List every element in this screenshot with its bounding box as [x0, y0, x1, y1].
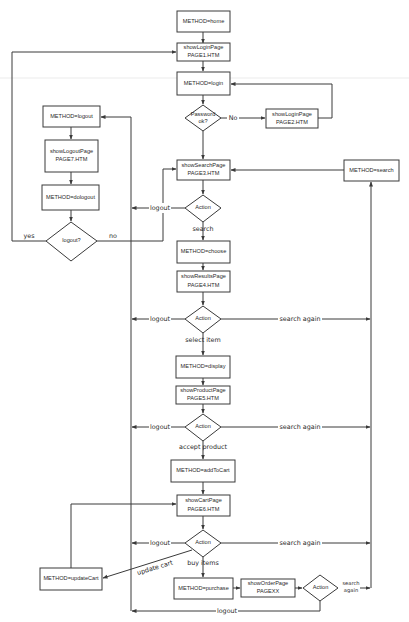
svg-text:PAGE5.HTM: PAGE5.HTM: [187, 395, 219, 401]
label-yes-logout: yes: [23, 232, 35, 240]
label-search-1: search: [192, 225, 213, 233]
label-logout-4: logout: [150, 539, 171, 547]
node-show-cart-page6: showCartPage PAGE6.HTM: [177, 495, 230, 516]
svg-text:Action: Action: [195, 423, 211, 429]
node-action-4-decision: Action: [185, 530, 221, 557]
web-store-flowchart: No yes no logout search logout search ag…: [0, 0, 409, 622]
svg-text:Password: Password: [191, 111, 216, 117]
svg-text:PAGE4.HTM: PAGE4.HTM: [188, 282, 220, 288]
svg-text:PAGE6.HTM: PAGE6.HTM: [188, 506, 220, 512]
svg-text:PAGE1.HTM: PAGE1.HTM: [188, 52, 220, 58]
svg-text:Action: Action: [195, 204, 211, 210]
node-method-login: METHOD=login: [177, 72, 230, 95]
label-search-again-4: search again: [280, 539, 321, 547]
svg-text:showLoginPage: showLoginPage: [272, 111, 312, 117]
svg-text:PAGEXX: PAGEXX: [257, 588, 280, 594]
node-action-5-decision: Action: [303, 575, 338, 601]
node-show-login-page2: showLoginPage PAGE2.HTM: [266, 109, 318, 128]
svg-text:showOrderPage: showOrderPage: [248, 580, 288, 586]
svg-text:showProductPage: showProductPage: [180, 387, 225, 393]
svg-text:METHOD=purchase: METHOD=purchase: [178, 585, 229, 591]
label-no-password: No: [229, 114, 238, 122]
node-method-dologout: METHOD=dologout: [42, 185, 99, 210]
svg-text:METHOD=display: METHOD=display: [181, 363, 226, 369]
node-method-purchase: METHOD=purchase: [174, 578, 233, 599]
node-show-login-page1: showLoginPage PAGE1.HTM: [177, 43, 230, 61]
label-logout-3: logout: [150, 423, 171, 431]
svg-text:METHOD=home: METHOD=home: [183, 18, 225, 24]
svg-text:METHOD=search: METHOD=search: [349, 167, 393, 173]
svg-text:PAGE3.HTM: PAGE3.HTM: [188, 170, 220, 176]
svg-text:logout?: logout?: [62, 237, 80, 243]
node-method-updatecart: METHOD=updateCart: [40, 568, 102, 590]
svg-text:showLoginPage: showLoginPage: [184, 44, 224, 50]
svg-text:METHOD=addToCart: METHOD=addToCart: [176, 467, 230, 473]
node-show-results-page4: showResultsPage PAGE4.HTM: [177, 271, 230, 292]
node-show-product-page5: showProductPage PAGE5.HTM: [176, 386, 230, 404]
svg-text:showCartPage: showCartPage: [185, 497, 222, 503]
label-search-again-2: search again: [280, 315, 321, 323]
svg-text:PAGE2.HTM: PAGE2.HTM: [276, 119, 308, 125]
svg-text:Action: Action: [195, 539, 211, 545]
label-logout-2: logout: [150, 315, 171, 323]
label-accept-product: accept product: [179, 443, 228, 451]
svg-text:Action: Action: [195, 315, 211, 321]
label-logout-1: logout: [150, 204, 171, 212]
node-password-ok-decision: Password ok?: [185, 105, 221, 131]
node-action-3-decision: Action: [185, 414, 221, 441]
svg-text:METHOD=dologout: METHOD=dologout: [46, 194, 95, 200]
svg-text:METHOD=login: METHOD=login: [184, 80, 223, 86]
node-show-search-page3: showSearchPage PAGE3.HTM: [177, 160, 230, 180]
node-method-addtocart: METHOD=addToCart: [171, 460, 235, 482]
svg-text:METHOD=updateCart: METHOD=updateCart: [43, 575, 99, 581]
node-action-1-decision: Action: [185, 195, 221, 222]
node-logout-question-decision: logout?: [46, 222, 97, 261]
edge-logout-bus: [101, 117, 131, 611]
node-action-2-decision: Action: [185, 306, 221, 333]
node-method-search: METHOD=search: [344, 160, 399, 181]
label-buy-items: buy items: [187, 559, 219, 567]
label-no-logout: no: [109, 232, 117, 240]
node-method-display: METHOD=display: [176, 356, 230, 378]
node-show-logout-page7: showLogoutPage PAGE7.HTM: [45, 140, 98, 172]
label-logout-5: logout: [217, 607, 238, 615]
node-method-home: METHOD=home: [177, 11, 230, 32]
svg-text:ok?: ok?: [198, 118, 207, 124]
svg-text:METHOD=logout: METHOD=logout: [50, 113, 93, 119]
node-method-logout: METHOD=logout: [43, 106, 100, 127]
svg-text:showLogoutPage: showLogoutPage: [50, 148, 93, 154]
svg-text:Action: Action: [313, 584, 329, 590]
svg-text:PAGE7.HTM: PAGE7.HTM: [56, 156, 88, 162]
label-select-item: select item: [185, 336, 220, 344]
svg-text:showResultsPage: showResultsPage: [181, 273, 226, 279]
edge-updatecart-to-page6: [71, 504, 176, 568]
label-search-again-5-line2: again: [344, 587, 358, 594]
svg-text:METHOD=choose: METHOD=choose: [181, 248, 227, 254]
node-show-order-page: showOrderPage PAGEXX: [241, 579, 295, 597]
svg-text:showSearchPage: showSearchPage: [182, 162, 226, 168]
label-search-again-5-line1: search: [342, 580, 359, 586]
node-method-choose: METHOD=choose: [177, 241, 230, 263]
label-search-again-3: search again: [280, 423, 321, 431]
